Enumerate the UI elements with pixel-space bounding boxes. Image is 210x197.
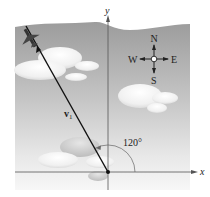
compass-south-label: S: [151, 75, 157, 86]
x-axis-arrow-icon: [191, 170, 198, 174]
y-axis-label: y: [104, 5, 110, 16]
compass-east-label: E: [171, 54, 177, 65]
compass-west-label: W: [128, 54, 138, 65]
angle-label: 120°: [123, 137, 142, 148]
x-axis-label: x: [199, 166, 205, 177]
origin-point: [106, 170, 110, 174]
y-axis-arrow-icon: [106, 15, 110, 22]
vector-diagram: x y 120° v1 N S E W: [0, 0, 210, 197]
compass-north-label: N: [151, 33, 158, 44]
